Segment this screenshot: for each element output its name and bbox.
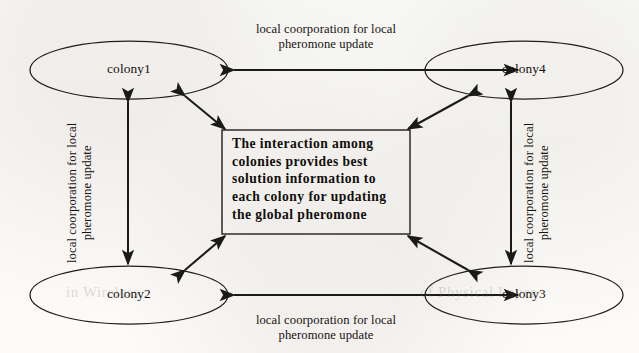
edge-label-top: local coorporation for local pheromone u… [211, 22, 441, 52]
edge-label-bottom: local coorporation for local pheromone u… [211, 313, 441, 343]
node-label-colony2: colony2 [29, 286, 229, 302]
edge-colony4-center[interactable] [408, 96, 468, 129]
edge-colony3-center[interactable] [408, 236, 468, 270]
figure-canvas: in Wireless of Physical Layer colony1 co… [0, 0, 639, 353]
edge-label-left: local coorporation for local pheromone u… [65, 93, 95, 293]
center-box-label: The interaction among colonies provides … [232, 135, 408, 223]
edge-label-right: local coorporation for local pheromone u… [522, 93, 552, 293]
edge-colony2-center[interactable] [185, 236, 225, 270]
edge-colony1-center[interactable] [185, 96, 225, 129]
node-label-colony4: colony4 [424, 61, 624, 77]
node-label-colony1: colony1 [29, 61, 229, 77]
